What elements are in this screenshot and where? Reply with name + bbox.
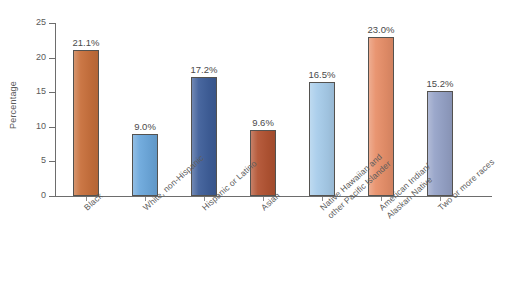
bar-sheen [133, 135, 157, 195]
bar-chart: Percentage 2520151050 21.1%9.0%17.2%9.6%… [0, 0, 506, 302]
bar[interactable]: 21.1% [73, 50, 99, 196]
bar-sheen [74, 51, 98, 195]
bar-value-label: 16.5% [309, 69, 336, 80]
bar-sheen [192, 78, 216, 195]
y-axis-tick: 20 [49, 58, 55, 59]
y-axis-tick: 10 [49, 127, 55, 128]
y-axis-tick: 25 [49, 23, 55, 24]
bar-value-label: 9.0% [134, 121, 156, 132]
y-axis-tick-label: 10 [36, 121, 46, 131]
y-axis-tick-label: 0 [41, 190, 46, 200]
y-axis-tick: 15 [49, 92, 55, 93]
y-axis-tick-label: 15 [36, 86, 46, 96]
bar-sheen [310, 83, 334, 195]
y-axis-tick-label: 5 [41, 155, 46, 165]
bar-value-label: 9.6% [252, 117, 274, 128]
bar-value-label: 21.1% [73, 37, 100, 48]
y-axis-tick-label: 25 [36, 17, 46, 27]
bar[interactable]: 16.5% [309, 82, 335, 196]
bar[interactable]: 17.2% [191, 77, 217, 196]
bar-value-label: 17.2% [191, 64, 218, 75]
bar-value-label: 15.2% [427, 78, 454, 89]
bar[interactable]: 9.0% [132, 134, 158, 196]
y-axis-tick: 0 [49, 196, 55, 197]
y-axis-tick: 5 [49, 161, 55, 162]
y-axis-tick-label: 20 [36, 52, 46, 62]
y-axis-line [55, 23, 56, 197]
y-axis-title: Percentage [8, 60, 18, 150]
bar-value-label: 23.0% [368, 24, 395, 35]
